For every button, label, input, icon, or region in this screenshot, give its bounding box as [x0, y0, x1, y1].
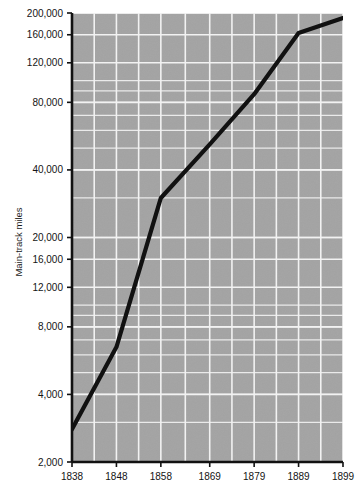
x-tick-label: 1838	[61, 471, 84, 482]
x-tick-label: 1858	[150, 471, 173, 482]
line-chart: 2,0004,0008,00012,00016,00020,00040,0008…	[0, 0, 355, 495]
y-tick-label: 80,000	[32, 97, 63, 108]
y-tick-label: 40,000	[32, 164, 63, 175]
y-tick-label: 20,000	[32, 232, 63, 243]
x-tick-label: 1848	[105, 471, 128, 482]
y-tick-label: 4,000	[38, 389, 63, 400]
y-tick-label: 200,000	[27, 8, 64, 19]
y-tick-label: 120,000	[27, 57, 64, 68]
x-tick-label: 1869	[199, 471, 222, 482]
y-tick-label: 16,000	[32, 254, 63, 265]
y-axis-title: Main-track miles	[13, 207, 24, 276]
x-tick-label: 1899	[332, 471, 355, 482]
y-tick-label: 12,000	[32, 282, 63, 293]
gridlines-horizontal	[72, 13, 343, 462]
y-tick-label: 2,000	[38, 457, 63, 468]
x-tick-label: 1889	[287, 471, 310, 482]
x-tick-label: 1879	[243, 471, 266, 482]
chart-container: 2,0004,0008,00012,00016,00020,00040,0008…	[0, 0, 355, 495]
y-tick-label: 8,000	[38, 321, 63, 332]
y-tick-label: 160,000	[27, 29, 64, 40]
